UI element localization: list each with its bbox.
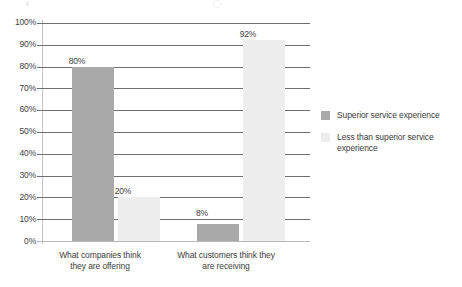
- bar-companies-superior: [72, 67, 114, 241]
- bar-value-label-customers-superior: 8%: [177, 208, 227, 218]
- y-tick-label: 70%: [2, 84, 36, 93]
- y-tick-label: 30%: [2, 171, 36, 180]
- scan-artifact: [213, 0, 222, 8]
- bar-value-label-customers-less-than-superior: 92%: [223, 29, 273, 39]
- legend-item-label: Superior service experience: [337, 110, 440, 121]
- bar-companies-less-than-superior: [118, 197, 160, 241]
- y-tick-label: 0%: [2, 237, 36, 246]
- bar-customers-less-than-superior: [243, 40, 285, 241]
- legend-swatch-icon: [321, 133, 330, 142]
- bar-chart: 100% 90% 80% 70% 60% 50% 40% 30% 20% 10%…: [0, 0, 462, 287]
- y-tick-label: 100%: [2, 18, 36, 27]
- legend-item-label: Less than superior service experience: [337, 132, 459, 154]
- bar-value-label-companies-less-than-superior: 20%: [98, 186, 148, 196]
- x-axis-label-line: What customers think they: [161, 250, 291, 261]
- y-tick-label: 80%: [2, 62, 36, 71]
- y-tick-label: 20%: [2, 193, 36, 202]
- y-axis-labels: 100% 90% 80% 70% 60% 50% 40% 30% 20% 10%…: [0, 0, 36, 287]
- gridline: [42, 23, 310, 24]
- bar-customers-superior: [197, 224, 239, 241]
- x-axis-label-line: are receiving: [161, 261, 291, 272]
- legend-item-less-than-superior: Less than superior service experience: [321, 132, 459, 154]
- bar-value-label-companies-superior: 80%: [52, 56, 102, 66]
- y-tick-label: 50%: [2, 127, 36, 136]
- y-tick-label: 10%: [2, 215, 36, 224]
- y-tick-label: 40%: [2, 149, 36, 158]
- chart-legend: Superior service experience Less than su…: [321, 110, 459, 165]
- x-axis-label-customers: What customers think they are receiving: [161, 250, 291, 272]
- x-axis-label-companies: What companies think they are offering: [40, 250, 160, 272]
- y-tick-label: 90%: [2, 40, 36, 49]
- legend-swatch-icon: [321, 111, 330, 120]
- x-axis-label-line: What companies think: [40, 250, 160, 261]
- x-axis-baseline: [42, 241, 310, 242]
- y-tick-label: 60%: [2, 105, 36, 114]
- legend-item-superior: Superior service experience: [321, 110, 459, 121]
- x-axis-label-line: they are offering: [40, 261, 160, 272]
